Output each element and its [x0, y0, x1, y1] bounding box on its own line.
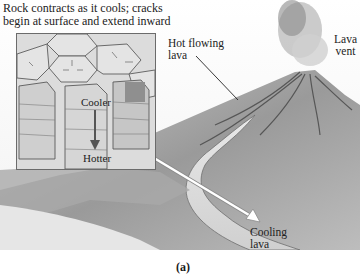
hot-flowing-lava-label: Hot flowing lava [168, 37, 224, 61]
cooling-lava-label: Cooling lava [250, 226, 287, 250]
hot-flowing-lava-line2: lava [168, 49, 224, 61]
columnar-jointing-inset: Cooler Hotter [16, 33, 156, 170]
inset-caption: Rock contracts as it cools; cracks begin… [3, 2, 171, 28]
lava-vent-label: Lava vent [334, 33, 357, 57]
panel-label: (a) [176, 260, 190, 275]
hot-flowing-lava-line1: Hot flowing [168, 37, 224, 49]
cooling-lava-line2: lava [250, 238, 287, 250]
lava-vent-line1: Lava [334, 33, 357, 45]
cooling-lava-line1: Cooling [250, 226, 287, 238]
inset-caption-line2: begin at surface and extend inward [3, 15, 171, 28]
hotter-label: Hotter [83, 152, 111, 164]
cooler-label: Cooler [81, 96, 111, 108]
lava-vent-line2: vent [334, 45, 357, 57]
